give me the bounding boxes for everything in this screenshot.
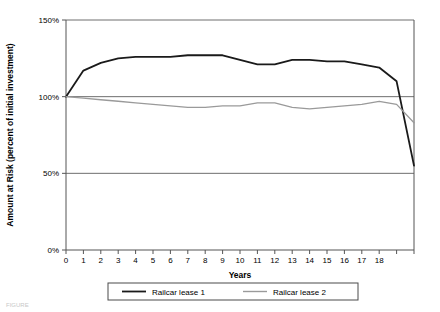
figure-caption: FIGURE bbox=[6, 302, 29, 308]
x-axis-title: Years bbox=[229, 270, 252, 280]
y-tick-label-150: 150% bbox=[39, 16, 59, 25]
x-tick-label-5: 5 bbox=[151, 256, 156, 265]
chart-legend: Railcar lease 1 Railcar lease 2 bbox=[108, 283, 358, 300]
x-tick-label-11: 11 bbox=[253, 256, 262, 265]
legend-label-railcar-lease-1: Railcar lease 1 bbox=[152, 288, 205, 297]
x-tick-label-13: 13 bbox=[288, 256, 297, 265]
y-tick-label-50: 50% bbox=[43, 169, 59, 178]
chart-figure: 0123456789101112131415161718 0%50%100%15… bbox=[0, 0, 440, 312]
legend-label-railcar-lease-2: Railcar lease 2 bbox=[273, 288, 326, 297]
line-chart: 0123456789101112131415161718 0%50%100%15… bbox=[0, 0, 440, 312]
x-tick-label-2: 2 bbox=[99, 256, 104, 265]
x-tick-label-4: 4 bbox=[133, 256, 138, 265]
x-tick-label-8: 8 bbox=[203, 256, 208, 265]
x-tick-label-7: 7 bbox=[186, 256, 191, 265]
x-axis bbox=[66, 250, 414, 254]
x-tick-label-1: 1 bbox=[81, 256, 86, 265]
x-tick-label-14: 14 bbox=[305, 256, 314, 265]
x-tick-label-9: 9 bbox=[220, 256, 225, 265]
x-tick-label-18: 18 bbox=[375, 256, 384, 265]
x-tick-label-15: 15 bbox=[323, 256, 332, 265]
y-axis-title: Amount at Risk (percent of initial inves… bbox=[5, 43, 15, 226]
x-tick-label-0: 0 bbox=[64, 256, 69, 265]
y-tick-label-100: 100% bbox=[39, 93, 59, 102]
y-tick-label-0: 0% bbox=[47, 246, 59, 255]
x-tick-label-6: 6 bbox=[168, 256, 173, 265]
x-tick-label-17: 17 bbox=[357, 256, 366, 265]
x-tick-label-12: 12 bbox=[270, 256, 279, 265]
x-tick-label-10: 10 bbox=[236, 256, 245, 265]
x-tick-label-3: 3 bbox=[116, 256, 121, 265]
x-tick-label-16: 16 bbox=[340, 256, 349, 265]
